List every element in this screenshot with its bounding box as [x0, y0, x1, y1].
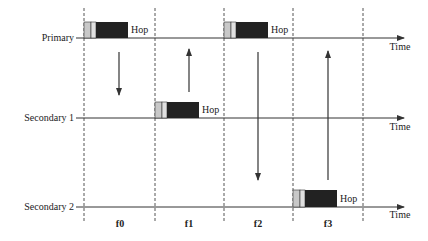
row-label-secondary-2: Secondary 2	[24, 201, 74, 212]
packet-primary-f2	[224, 22, 268, 38]
packet-primary-f0	[84, 22, 128, 38]
packet-secondary1-f1	[155, 102, 199, 118]
packet-label: Hop	[340, 193, 357, 204]
packet-secondary2-f3	[293, 190, 337, 207]
slot-label-f0: f0	[116, 218, 124, 229]
hopping-diagram: Primary Secondary 1 Secondary 2 Time Tim…	[0, 0, 428, 241]
time-axes	[76, 38, 404, 207]
row-label-primary: Primary	[42, 32, 74, 43]
slot-label-f2: f2	[254, 218, 262, 229]
time-axis-label: Time	[390, 209, 411, 220]
packet-label: Hop	[202, 104, 219, 115]
slot-label-f1: f1	[185, 218, 193, 229]
time-axis-label: Time	[390, 41, 411, 52]
packet-label: Hop	[131, 24, 148, 35]
slot-boundaries	[84, 8, 363, 222]
packet-label: Hop	[271, 24, 288, 35]
slot-label-f3: f3	[324, 218, 332, 229]
row-label-secondary-1: Secondary 1	[24, 112, 74, 123]
time-axis-label: Time	[390, 121, 411, 132]
